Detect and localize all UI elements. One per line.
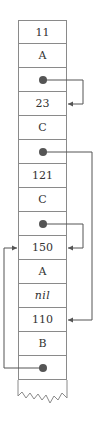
torn-edge	[0, 0, 101, 428]
